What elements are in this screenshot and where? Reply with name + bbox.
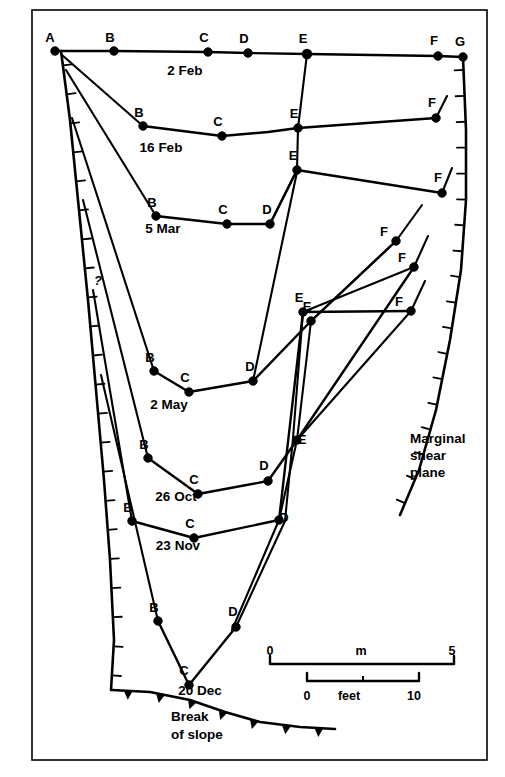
profile-23-nov-point-f [407,307,415,315]
profile-26-oct-label-f: F [398,250,406,265]
crevasse-right-wall-14 [396,205,422,241]
right-marginal-shear-plane-tick [422,427,431,429]
crevasse-right-wall-4 [253,172,297,381]
profile-5-mar-line [156,170,442,224]
profile-5-mar-point-c [223,220,231,228]
left-marginal-shear-plane-tick [70,122,79,123]
crevasse-left-wall-1 [62,55,143,126]
profile-2-may-point-b [150,367,158,375]
uncertainty-question-mark: ? [94,273,102,288]
imperial-scale-unit-label: feet [338,689,361,703]
profile-5-mar-date-label: 5 Mar [145,221,181,236]
crevasse-right-wall-15 [414,236,428,267]
break-of-slope-tooth [282,725,291,735]
right-marginal-shear-plane-tick [428,403,437,405]
right-marginal-shear-plane-tick [453,251,462,252]
profile-16-feb-date-label: 16 Feb [140,140,183,155]
break-of-slope-line [112,690,335,737]
profile-26-oct-label-e: E [298,432,307,447]
profile-2-feb-point-b [110,47,118,55]
metric-scale-max-label: 5 [449,644,456,658]
figure-root: ABCDEFGBCEFBCDEFBCDEFBCDEFBCDEFBCD 2 Feb… [0,0,505,777]
left-marginal-shear-plane-tick [93,355,102,356]
profile-2-feb-label-c: C [199,30,209,45]
left-marginal-shear-plane-tick [98,413,107,414]
profile-2-may-point-e [307,317,315,325]
break-of-slope-line-1: Break [171,709,209,724]
metric-scale-min-label: 0 [267,644,274,658]
profile-16-feb-label-f: F [428,95,436,110]
profile-23-nov-label-b: B [123,500,132,515]
profile-2-may-point-d [249,377,257,385]
crevasse-right-wall-10 [232,520,279,630]
left-marginal-shear-plane-tick [103,471,112,472]
crevasse-right-wall-1 [298,54,307,128]
profile-20-dec-label-b: B [149,600,158,615]
profile-26-oct-point-b [144,454,152,462]
profile-2-feb-date-label: 2 Feb [167,63,202,78]
right-marginal-shear-plane-tick [433,377,442,379]
marginal-shear-plane-line-3: plane [410,465,446,480]
left-marginal-shear-plane-tick [108,529,117,530]
profile-2-feb-label-a: A [45,30,55,45]
profile-2-may-label-b: B [145,350,154,365]
crevasse-cross-section-chart: ABCDEFGBCEFBCDEFBCDEFBCDEFBCDEFBCD 2 Feb… [0,0,505,777]
marginal-shear-plane-line-2: shear [410,448,447,463]
left-marginal-shear-plane-tick [106,500,115,501]
left-marginal-shear-plane-tick [110,558,119,559]
profile-20-dec-point-b [154,617,162,625]
profile-2-feb-point-a [51,47,59,55]
profile-2-feb-label-g: G [455,34,465,49]
profile-5-mar-label-f: F [434,170,442,185]
right-marginal-shear-plane-line [400,57,466,515]
right-marginal-shear-plane [397,57,466,515]
left-marginal-shear-plane-tick [82,238,91,239]
profile-5-mar-label-e: E [289,148,298,163]
marginal-shear-plane-label: Marginal shear plane [410,431,469,480]
profile-2-may-label-c: C [180,370,190,385]
crevasse-right-wall-9 [236,521,285,627]
profile-2-feb-label-f: F [430,33,438,48]
profile-2-feb-point-f [434,52,442,60]
profile-26-oct-label-b: B [139,437,148,452]
profile-16-feb-point-c [218,132,226,140]
profile-5-mar-label-d: D [262,202,271,217]
right-marginal-shear-plane-tick [447,301,456,302]
profile-2-may-label-e: E [303,299,312,314]
profile-5-mar-point-f [438,189,446,197]
profile-2-feb-label-b: B [105,30,114,45]
imperial-scale-max-label: 10 [407,689,421,703]
profile-5-mar-point-e [293,166,301,174]
profile-23-nov-date-label: 23 Nov [156,538,201,553]
left-marginal-shear-plane-tick [85,268,94,269]
break-of-slope-label: Break of slope [171,709,223,742]
scale-bars-group [270,656,454,681]
break-of-slope-path [112,690,335,729]
right-marginal-shear-plane-tick [443,327,452,328]
left-marginal-shear-plane-tick [67,93,76,94]
profile-2-may-label-d: D [245,359,254,374]
profile-2-feb-label-d: D [239,31,248,46]
left-marginal-shear-plane-tick [63,64,72,65]
profile-5-mar-point-d [266,220,274,228]
profile-23-nov-label-f: F [395,294,403,309]
profile-16-feb-label-b: B [134,105,143,120]
left-marginal-shear-plane-tick [101,442,110,443]
profile-2-feb-point-d [244,49,252,57]
profile-16-feb-point-f [432,114,440,122]
profile-5-mar-label-b: B [147,195,156,210]
profile-20-dec-line [158,621,236,685]
profile-2-may-date-label: 2 May [150,397,188,412]
profile-23-nov-label-c: C [185,516,195,531]
right-marginal-shear-plane-tick [438,352,447,354]
profile-20-dec-date-label: 20 Dec [178,683,222,698]
profile-lines-group [55,51,463,685]
crevasse-right-wall-16 [411,281,425,311]
crevasse-left-wall-3 [72,118,154,371]
profile-20-dec-point-d [232,623,240,631]
profile-20-dec-label-d: D [228,604,237,619]
station-labels-group: ABCDEFGBCEFBCDEFBCDEFBCDEFBCDEFBCD [45,30,465,678]
break-of-slope-tooth [314,728,323,737]
profile-2-feb-label-e: E [299,31,308,46]
profile-26-oct-date-label: 26 Oct [155,489,197,504]
